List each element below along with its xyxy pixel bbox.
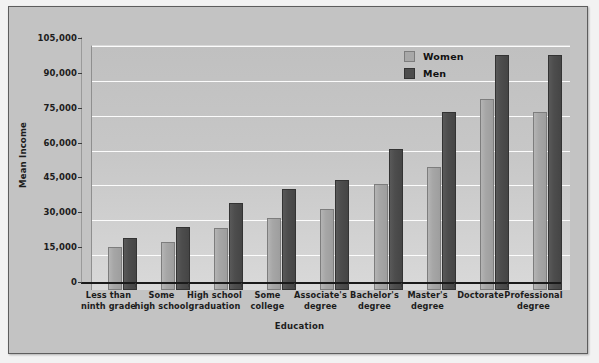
bar-group [517,46,570,290]
y-tick-mark [78,108,82,109]
y-tick-mark [78,143,82,144]
x-tick-label: Professionaldegree [501,290,566,312]
y-axis-title: Mean Income [18,110,28,200]
legend-item-women: Women [404,48,490,65]
chart-screenshot: 015,00030,00045,00060,00075,00090,000105… [0,0,599,363]
y-tick-label: 60,000 [44,138,77,148]
bar-group [358,46,411,290]
x-tick-label-line: Professional [501,290,566,301]
x-tick-mark [188,283,189,287]
legend-swatch-men-icon [404,68,415,79]
bar-men [495,55,509,290]
y-tick-mark [78,73,82,74]
legend-item-men: Men [404,65,490,82]
y-tick-label: 30,000 [44,207,77,217]
chart-legend: Women Men [404,48,490,82]
x-tick-mark [401,283,402,287]
x-axis-title: Education [0,321,599,331]
bar-group [198,46,251,290]
bar-women [267,218,281,290]
legend-swatch-women-icon [404,51,415,62]
legend-label-men: Men [423,68,446,79]
bar-women [320,209,334,290]
bar-group [464,46,517,290]
bar-women [533,112,547,290]
bar-men [389,149,403,290]
figure-background: 015,00030,00045,00060,00075,00090,000105… [0,0,599,363]
plot-area [91,45,570,290]
y-tick-label: 90,000 [44,68,77,78]
bar-group [411,46,464,290]
y-tick-mark [78,282,82,283]
x-tick-mark [454,283,455,287]
bar-group [304,46,357,290]
bar-group [251,46,304,290]
x-tick-label-line: degree [501,301,566,312]
x-tick-mark [507,283,508,287]
y-tick-label: 45,000 [44,172,77,182]
bar-group [145,46,198,290]
x-tick-mark [294,283,295,287]
x-tick-label-line: degree [395,301,460,312]
bar-group [92,46,145,290]
bar-men [442,112,456,290]
y-tick-label: 105,000 [38,33,77,43]
bar-women [427,167,441,290]
bar-men [176,227,190,290]
y-tick-mark [78,247,82,248]
bar-men [229,203,243,290]
y-tick-mark [78,212,82,213]
bar-men [548,55,562,290]
x-axis-line [81,282,561,284]
bar-women [214,228,228,290]
bar-women [374,184,388,290]
bar-women [480,99,494,290]
legend-label-women: Women [423,51,464,62]
y-tick-mark [78,38,82,39]
x-tick-mark [135,283,136,287]
bar-men [282,189,296,290]
x-tick-mark [241,283,242,287]
y-axis-line [81,37,82,283]
y-tick-mark [78,177,82,178]
x-tick-mark [348,283,349,287]
y-tick-label: 75,000 [44,103,77,113]
y-tick-label: 15,000 [44,242,77,252]
bar-men [335,180,349,290]
y-tick-label: 0 [71,277,77,287]
